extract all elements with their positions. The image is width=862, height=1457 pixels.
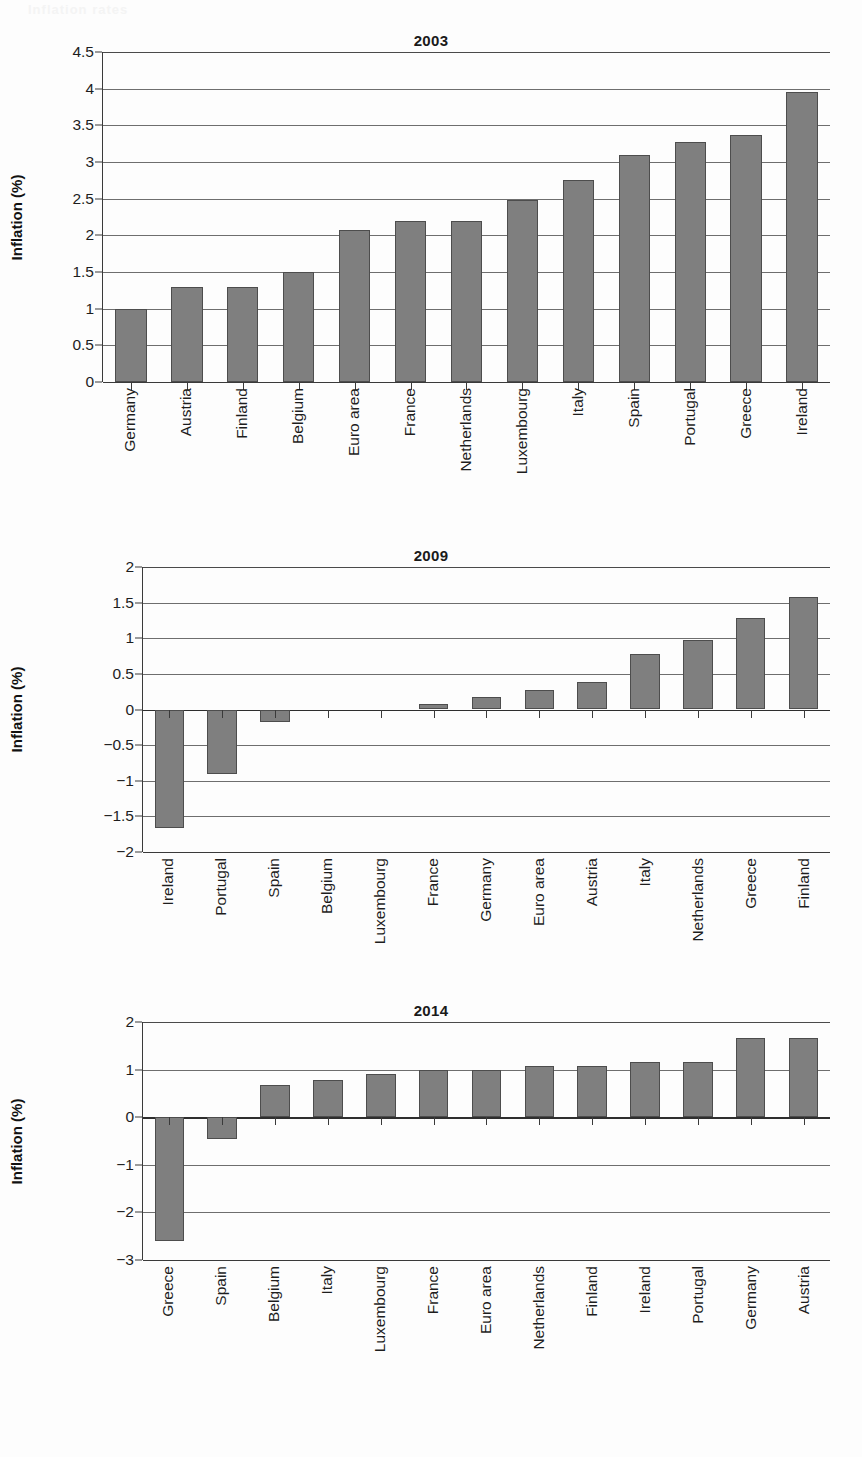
x-labels-2003: GermanyAustriaFinlandBelgiumEuro areaFra…	[102, 384, 830, 522]
bar[interactable]	[683, 1062, 713, 1117]
bar-slot[interactable]	[777, 1022, 830, 1260]
bar[interactable]	[736, 618, 766, 709]
bar[interactable]	[155, 710, 185, 828]
bar-slot[interactable]	[196, 567, 249, 852]
y-tick-label: 0.5	[112, 665, 134, 683]
bar[interactable]	[339, 230, 370, 382]
bar[interactable]	[419, 1070, 449, 1118]
y-tick-mark	[135, 745, 142, 746]
bar-slot[interactable]	[249, 1022, 302, 1260]
x-axis-category-label: Belgium	[265, 1266, 283, 1322]
bar-slot[interactable]	[407, 567, 460, 852]
bar-slot[interactable]	[566, 567, 619, 852]
bar[interactable]	[786, 92, 817, 382]
bar-slot[interactable]	[302, 567, 355, 852]
bar-slot[interactable]	[777, 567, 830, 852]
bar[interactable]	[507, 200, 538, 382]
bar[interactable]	[155, 1117, 185, 1241]
bar-slot[interactable]	[271, 52, 327, 382]
x-axis-category-label: Euro area	[477, 1266, 495, 1334]
bar[interactable]	[395, 221, 426, 382]
x-label-slot: Luxembourg	[494, 384, 550, 522]
y-tick-mark	[95, 198, 102, 199]
x-label-slot: Spain	[248, 854, 301, 997]
bar[interactable]	[736, 1038, 766, 1117]
chart-2003: 2003 Inflation (%) 00.511.522.533.544.5 …	[0, 30, 862, 530]
bar-slot[interactable]	[103, 52, 159, 382]
bar[interactable]	[472, 1070, 502, 1118]
bar-slot[interactable]	[671, 567, 724, 852]
x-axis-category-label: Luxembourg	[371, 858, 389, 944]
bar-slot[interactable]	[383, 52, 439, 382]
bar-slot[interactable]	[718, 52, 774, 382]
bar-slot[interactable]	[460, 1022, 513, 1260]
x-axis-category-label: Austria	[795, 1266, 813, 1314]
bar-slot[interactable]	[724, 1022, 777, 1260]
x-label-slot: Luxembourg	[354, 1262, 407, 1442]
bar[interactable]	[683, 640, 713, 710]
bar-slot[interactable]	[494, 52, 550, 382]
bar-slot[interactable]	[327, 52, 383, 382]
bar-slot[interactable]	[550, 52, 606, 382]
bar[interactable]	[630, 654, 660, 710]
x-axis-category-label: Greece	[159, 1266, 177, 1317]
bar[interactable]	[577, 1066, 607, 1117]
bar-slot[interactable]	[460, 567, 513, 852]
chart-body-2009: Inflation (%) −2−1.5−1−0.500.511.52 Irel…	[0, 567, 862, 997]
x-tick-mark	[539, 1117, 540, 1125]
y-tick-label: −1	[116, 772, 134, 790]
bar[interactable]	[577, 682, 607, 709]
x-axis-category-label: Belgium	[318, 858, 336, 914]
bar[interactable]	[313, 1080, 343, 1117]
bar-slot[interactable]	[143, 1022, 196, 1260]
bar-slot[interactable]	[143, 567, 196, 852]
bar[interactable]	[630, 1062, 660, 1117]
bar[interactable]	[283, 272, 314, 382]
x-axis-category-label: Netherlands	[689, 858, 707, 942]
y-tick-label: 0.5	[72, 336, 94, 354]
bar-slot[interactable]	[619, 567, 672, 852]
chart-2009: 2009 Inflation (%) −2−1.5−1−0.500.511.52…	[0, 545, 862, 1005]
bar-slot[interactable]	[671, 1022, 724, 1260]
bar[interactable]	[207, 710, 237, 774]
bar-slot[interactable]	[196, 1022, 249, 1260]
bar[interactable]	[563, 180, 594, 382]
bar-slot[interactable]	[439, 52, 495, 382]
bar-slot[interactable]	[606, 52, 662, 382]
bar[interactable]	[366, 1074, 396, 1117]
x-axis-category-label: Luxembourg	[513, 388, 531, 474]
bar-slot[interactable]	[566, 1022, 619, 1260]
bar[interactable]	[730, 135, 761, 382]
bar-slot[interactable]	[662, 52, 718, 382]
bar[interactable]	[525, 690, 555, 710]
bar-slot[interactable]	[619, 1022, 672, 1260]
bar-slot[interactable]	[774, 52, 830, 382]
bar[interactable]	[789, 1038, 819, 1117]
bar-slot[interactable]	[354, 567, 407, 852]
bar[interactable]	[260, 1085, 290, 1117]
bar-slot[interactable]	[724, 567, 777, 852]
y-tick-label: 0	[85, 373, 94, 391]
bar-slot[interactable]	[513, 1022, 566, 1260]
x-label-slot: Euro area	[326, 384, 382, 522]
bar[interactable]	[619, 155, 650, 382]
bar-slot[interactable]	[302, 1022, 355, 1260]
bar[interactable]	[171, 287, 202, 382]
x-label-slot: Portugal	[671, 1262, 724, 1442]
bar-slot[interactable]	[407, 1022, 460, 1260]
bar[interactable]	[789, 597, 819, 710]
bar[interactable]	[115, 309, 146, 382]
bar[interactable]	[472, 697, 502, 710]
bar-slot[interactable]	[354, 1022, 407, 1260]
y-tick-label: 2	[85, 226, 94, 244]
bar[interactable]	[675, 142, 706, 382]
x-tick-mark	[804, 710, 805, 718]
chart-title-2003: 2003	[0, 30, 862, 52]
bar-slot[interactable]	[159, 52, 215, 382]
bar[interactable]	[451, 221, 482, 382]
bar-slot[interactable]	[513, 567, 566, 852]
bar-slot[interactable]	[249, 567, 302, 852]
bar-slot[interactable]	[215, 52, 271, 382]
bar[interactable]	[525, 1066, 555, 1117]
bar[interactable]	[227, 287, 258, 382]
